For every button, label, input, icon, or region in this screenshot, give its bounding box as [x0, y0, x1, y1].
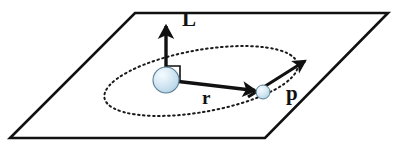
orbiting-particle [256, 85, 270, 99]
orbital-plane [10, 13, 388, 138]
label-angular-momentum: L [182, 7, 196, 31]
central-mass [153, 67, 179, 93]
label-radius-vector: r [202, 87, 211, 108]
label-momentum: p [286, 81, 298, 105]
diagram-canvas: L r p [0, 0, 400, 154]
physics-diagram-angular-momentum: L r p [0, 0, 400, 154]
